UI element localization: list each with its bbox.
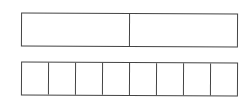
eighths-bar-segment xyxy=(211,63,237,95)
fraction-bar-eighths xyxy=(21,61,238,96)
eighths-bar-segment xyxy=(103,63,130,95)
halves-bar-segment xyxy=(130,14,237,47)
eighths-bar-segment xyxy=(130,63,157,95)
halves-bar-segment xyxy=(22,13,130,46)
fraction-bar-halves xyxy=(21,12,238,47)
eighths-bar-segment xyxy=(22,62,49,94)
eighths-bar-segment xyxy=(157,63,184,95)
eighths-bar-segment xyxy=(184,63,211,95)
eighths-bar-segment xyxy=(49,63,76,95)
eighths-bar-segment xyxy=(76,63,103,95)
